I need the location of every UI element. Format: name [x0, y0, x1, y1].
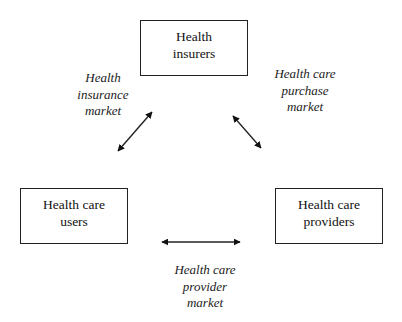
bidirectional-arrow-icon — [233, 116, 261, 148]
arrows-layer — [0, 0, 402, 322]
diagram-canvas: Health insurers Health care users Health… — [0, 0, 402, 322]
bidirectional-arrow-icon — [118, 112, 152, 151]
